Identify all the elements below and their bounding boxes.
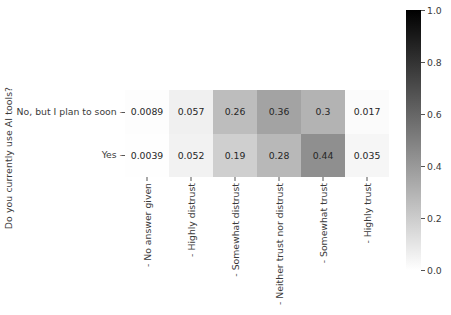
x-tick-label-1: - Highly distrust [186,183,197,257]
x-tick-dash-4: - [318,257,329,263]
heatmap-cell-value: 0.017 [354,107,381,116]
colorbar-ticks: 1.00.80.60.40.20.0 [421,10,451,270]
heatmap-cell: 0.36 [257,90,301,134]
y-tick-labels: No, but I plan to soon - Yes - [0,0,123,315]
heatmap-cell-value: 0.0039 [131,151,164,160]
heatmap-grid: 0.00890.0570.260.360.30.0170.00390.0520.… [125,90,389,177]
colorbar-tick-mark-2 [421,114,425,115]
heatmap-cell: 0.057 [169,90,213,134]
x-tick-label-text-4: Somewhat trust [318,183,329,257]
heatmap-cell-value: 0.19 [225,151,246,160]
x-tick-dash-3: - [274,299,285,305]
y-tick-mark-0 [122,112,126,113]
heatmap-cell-value: 0.057 [178,107,205,116]
x-tick-label-text-2: Somewhat distrust [230,183,241,270]
heatmap-cell-value: 0.052 [178,151,205,160]
x-tick-mark-4 [323,177,324,181]
x-tick-2: - Somewhat distrust [213,177,257,315]
x-tick-dash-1: - [186,251,197,257]
x-tick-4: - Somewhat trust [301,177,345,315]
colorbar-tick-label-0: 1.0 [427,5,442,16]
x-tick-label-text-5: Highly trust [362,183,373,237]
heatmap-cell-value: 0.26 [225,107,246,116]
y-tick-label-0-text: No, but I plan to soon [17,106,117,117]
heatmap-cell: 0.3 [301,90,345,134]
y-tick-label-1: Yes - [3,150,123,160]
heatmap-cell-value: 0.28 [269,151,290,160]
heatmap-cell: 0.052 [169,134,213,178]
x-tick-label-text-1: Highly distrust [186,183,197,251]
x-tick-label-4: - Somewhat trust [318,183,329,263]
heatmap-cell: 0.28 [257,134,301,178]
heatmap-cell: 0.0039 [125,134,169,178]
colorbar-tick-label-2: 0.6 [427,109,442,120]
y-tick-mark-1 [122,155,126,156]
x-tick-5: - Highly trust [345,177,389,315]
x-tick-0: - No answer given [125,177,169,315]
x-tick-dash-5: - [362,237,373,243]
heatmap-figure: Do you currently use AI tools? No, but I… [0,0,451,315]
x-tick-labels: - No answer given- Highly distrust- Some… [125,177,389,315]
heatmap-cell-value: 0.0089 [131,107,164,116]
colorbar-tick-mark-3 [421,166,425,167]
colorbar-gradient [406,10,421,270]
x-tick-mark-5 [367,177,368,181]
x-tick-label-2: - Somewhat distrust [230,183,241,277]
heatmap-cell: 0.44 [301,134,345,178]
x-tick-label-3: - Neither trust nor distrust [274,183,285,305]
heatmap-cell-value: 0.3 [316,107,331,116]
colorbar-tick-mark-5 [421,270,425,271]
x-tick-dash-2: - [230,270,241,276]
colorbar-tick-label-3: 0.4 [427,161,442,172]
heatmap-cell: 0.035 [345,134,389,178]
x-tick-3: - Neither trust nor distrust [257,177,301,315]
heatmap-cell: 0.19 [213,134,257,178]
x-tick-mark-0 [147,177,148,181]
x-tick-label-5: - Highly trust [362,183,373,244]
x-tick-label-text-3: Neither trust nor distrust [274,183,285,299]
y-tick-label-0: No, but I plan to soon - [3,107,123,117]
heatmap-cell: 0.017 [345,90,389,134]
x-tick-label-0: - No answer given [142,183,153,267]
x-tick-mark-3 [279,177,280,181]
x-tick-mark-2 [235,177,236,181]
heatmap-cell: 0.0089 [125,90,169,134]
x-tick-label-text-0: No answer given [142,183,153,261]
x-tick-mark-1 [191,177,192,181]
colorbar-tick-label-1: 0.8 [427,57,442,68]
colorbar-tick-label-4: 0.2 [427,213,442,224]
colorbar-tick-mark-4 [421,218,425,219]
x-tick-dash-0: - [142,261,153,267]
x-tick-1: - Highly distrust [169,177,213,315]
heatmap-cell: 0.26 [213,90,257,134]
y-tick-label-1-text: Yes [102,149,117,160]
heatmap-cell-value: 0.36 [269,107,290,116]
heatmap-cell-value: 0.44 [313,151,334,160]
heatmap-cell-value: 0.035 [354,151,381,160]
colorbar-tick-mark-0 [421,10,425,11]
colorbar-tick-label-5: 0.0 [427,265,442,276]
colorbar-tick-mark-1 [421,62,425,63]
